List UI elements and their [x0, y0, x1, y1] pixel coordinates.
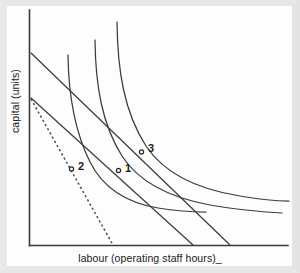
y-axis-label-wrapper: capital (units) [5, 41, 23, 161]
tangency-point-3-marker [139, 150, 143, 154]
tangency-point-2-label: 2 [78, 161, 84, 172]
tangency-point-1-label: 1 [125, 163, 131, 174]
x-axis-label: labour (operating staff hours)_ [0, 252, 300, 264]
y-axis-label: capital (units) [9, 69, 21, 133]
isoquant-curve-q3 [117, 22, 289, 201]
isoquant-curve-q2 [95, 40, 282, 213]
isocost-line-lower [31, 98, 193, 245]
isocost-line-upper [31, 53, 230, 245]
tangency-point-2-marker [69, 167, 73, 171]
isoquant-isocost-figure: 1 2 3 labour (operating staff hours)_ ca… [0, 0, 300, 273]
tangency-point-3-label: 3 [148, 143, 154, 154]
isoquant-curve-q1 [68, 55, 206, 212]
isoquant-curves-group [68, 22, 289, 213]
tangency-point-1-marker [116, 168, 120, 172]
plot-area [0, 0, 300, 273]
isocost-lines-group [31, 53, 230, 245]
